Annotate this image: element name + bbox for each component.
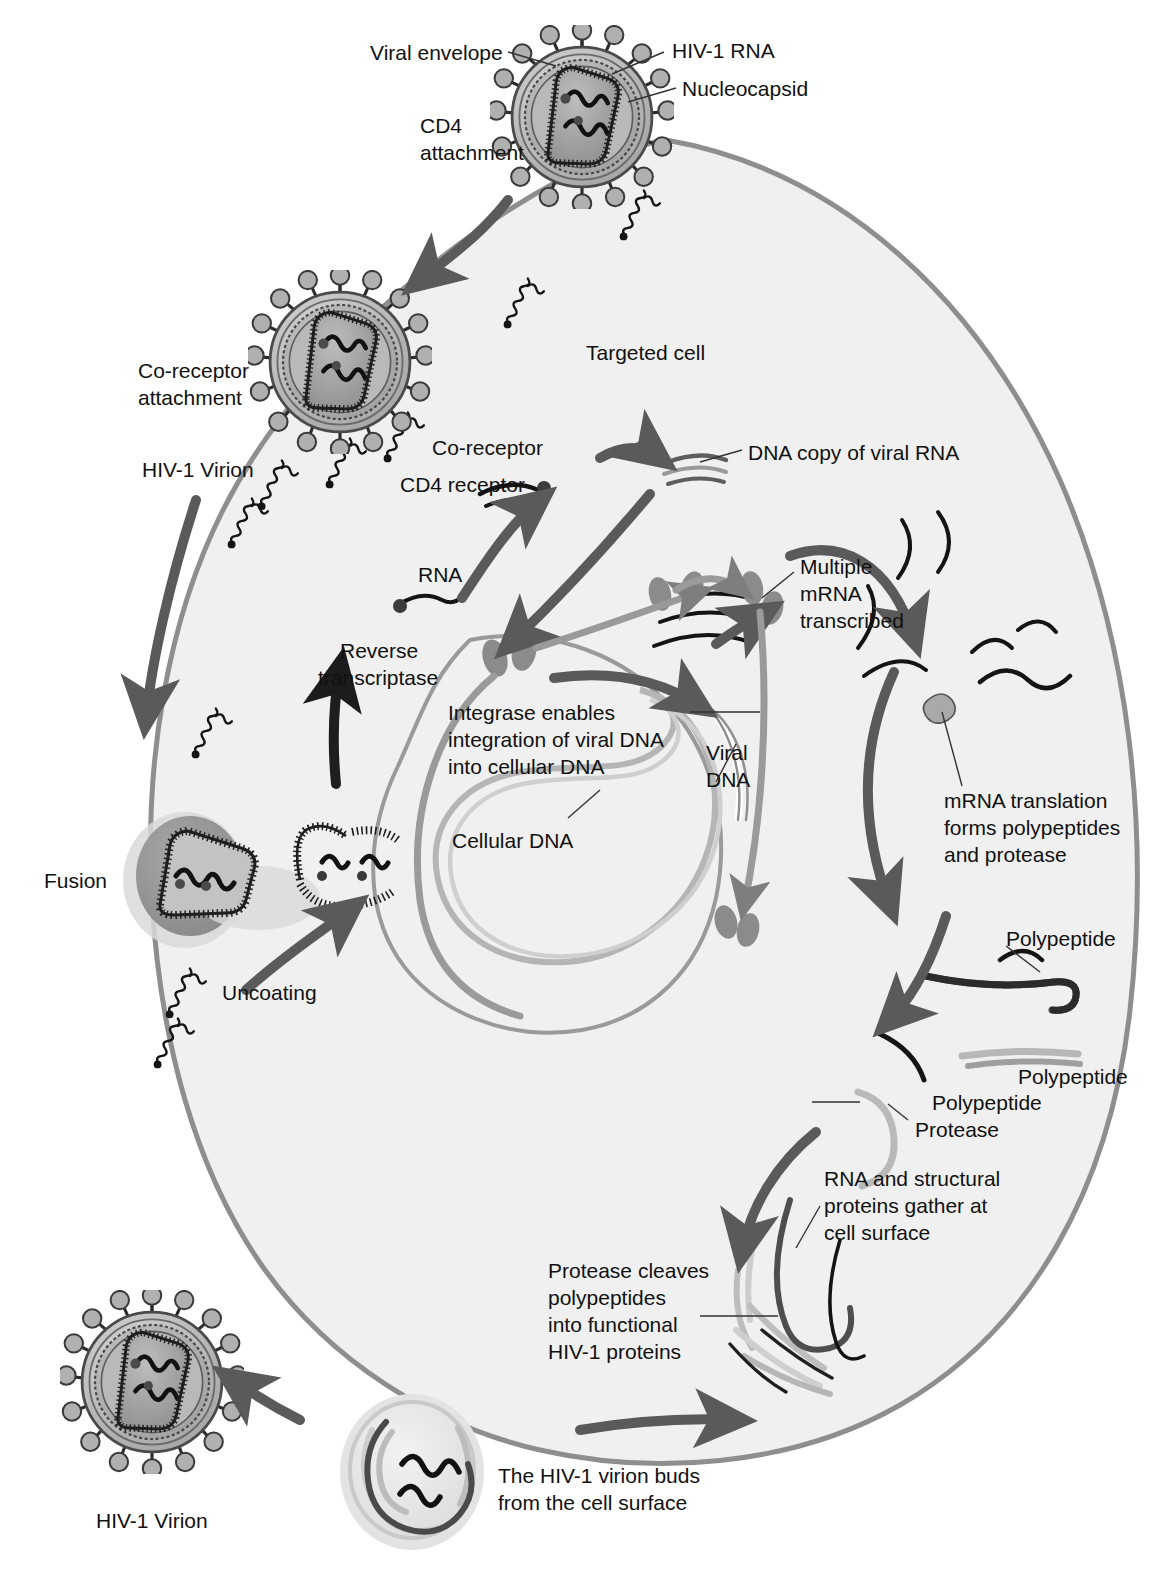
label-integrase-line1: Integrase enables (448, 701, 615, 724)
label-protease-cleaves-line2: polypeptides (548, 1286, 666, 1309)
label-polypeptide-3: Polypeptide (932, 1091, 1042, 1114)
label-nucleocapsid: Nucleocapsid (682, 77, 808, 100)
label-rna-structural-line1: RNA and structural (824, 1167, 1000, 1190)
label-cd4-attachment-line2: attachment (420, 141, 524, 164)
label-multiple-mrna-line1: Multiple (800, 555, 872, 578)
label-coreceptor: Co-receptor (432, 436, 543, 459)
label-virion-buds-line2: from the cell surface (498, 1491, 687, 1514)
label-cd4-attachment-line1: CD4 (420, 114, 462, 137)
label-cellular-dna: Cellular DNA (452, 829, 573, 852)
label-multiple-mrna-line2: mRNA (800, 582, 862, 605)
label-reverse-transcriptase-line1: Reverse (340, 639, 418, 662)
diagram-canvas: Viral envelope HIV-1 RNA Nucleocapsid CD… (0, 0, 1164, 1585)
label-viral-dna-line1: Viral (706, 741, 748, 764)
hiv-virion-icon (245, 266, 435, 457)
label-polypeptide-2: Polypeptide (1018, 1065, 1128, 1088)
label-rna-structural-line2: proteins gather at (824, 1194, 988, 1217)
label-viral-envelope: Viral envelope (370, 41, 503, 64)
label-fusion: Fusion (44, 869, 107, 892)
label-viral-dna-line2: DNA (706, 768, 750, 791)
label-polypeptide-1: Polypeptide (1006, 927, 1116, 950)
label-reverse-transcriptase-line2: transcriptase (318, 666, 438, 689)
hiv-virion-icon (487, 21, 677, 212)
label-protease-cleaves-line4: HIV-1 proteins (548, 1340, 681, 1363)
label-multiple-mrna-line3: transcribed (800, 609, 904, 632)
label-cd4-receptor: CD4 receptor (400, 473, 525, 496)
hiv-replication-diagram: Viral envelope HIV-1 RNA Nucleocapsid CD… (0, 0, 1164, 1585)
label-protease-cleaves-line1: Protease cleaves (548, 1259, 709, 1282)
label-integrase-line3: into cellular DNA (448, 755, 604, 778)
label-hiv1-rna: HIV-1 RNA (672, 39, 775, 62)
label-integrase-line2: integration of viral DNA (448, 728, 664, 751)
label-mrna-translation-line2: forms polypeptides (944, 816, 1120, 839)
label-uncoating: Uncoating (222, 981, 317, 1004)
label-coreceptor-attachment-line2: attachment (138, 386, 242, 409)
label-coreceptor-attachment-line1: Co-receptor (138, 359, 249, 382)
label-hiv1-virion-bottom: HIV-1 Virion (96, 1509, 208, 1532)
label-protease: Protease (915, 1118, 999, 1141)
label-hiv1-virion-top: HIV-1 Virion (142, 458, 254, 481)
label-protease-cleaves-line3: into functional (548, 1313, 678, 1336)
label-rna-structural-line3: cell surface (824, 1221, 930, 1244)
budding-virion-icon (340, 1394, 484, 1550)
label-virion-buds-line1: The HIV-1 virion buds (498, 1464, 700, 1487)
label-dna-copy-of-viral-rna: DNA copy of viral RNA (748, 441, 959, 464)
label-targeted-cell: Targeted cell (586, 341, 705, 364)
hiv-virion-icon (57, 1286, 247, 1477)
label-mrna-translation-line1: mRNA translation (944, 789, 1107, 812)
label-mrna-translation-line3: and protease (944, 843, 1067, 866)
label-rna: RNA (418, 563, 462, 586)
